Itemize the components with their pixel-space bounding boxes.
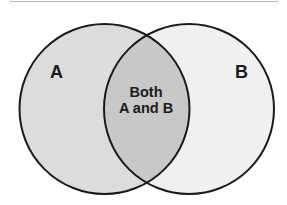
intersection-label-line2: A and B bbox=[104, 100, 188, 116]
intersection-label: Both A and B bbox=[104, 84, 188, 116]
intersection-label-line1: Both bbox=[104, 84, 188, 100]
set-b-label: B bbox=[235, 62, 248, 83]
set-a-label: A bbox=[50, 62, 63, 83]
venn-diagram: A B Both A and B bbox=[0, 0, 287, 205]
